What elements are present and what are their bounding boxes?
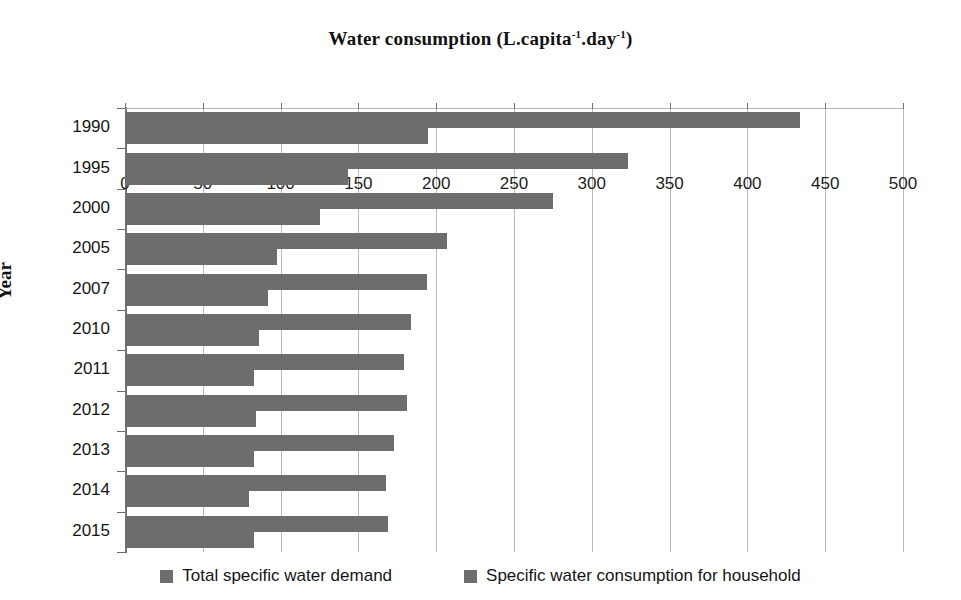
legend-label: Total specific water demand bbox=[182, 566, 392, 586]
bar-2013-series-1[interactable] bbox=[125, 451, 254, 467]
chart-title-exponent-1: -1 bbox=[572, 28, 582, 40]
x-tick-label: 350 bbox=[640, 174, 700, 194]
chart-title-exponent-2: -1 bbox=[616, 28, 626, 40]
bar-2007-series-1[interactable] bbox=[125, 290, 268, 306]
y-category-label-2010: 2010 bbox=[0, 319, 110, 339]
bar-1990-series-1[interactable] bbox=[125, 128, 428, 144]
x-tick-label: 500 bbox=[873, 174, 933, 194]
x-tick-mark-100 bbox=[281, 103, 282, 109]
chart-title: Water consumption (L.capita-1.day-1) bbox=[0, 28, 961, 50]
bar-2014-series-1[interactable] bbox=[125, 491, 249, 507]
bar-2005-series-1[interactable] bbox=[125, 249, 277, 265]
x-tick-label: 250 bbox=[484, 174, 544, 194]
y-tick-mark-2011 bbox=[117, 350, 125, 351]
x-tick-label: 450 bbox=[795, 174, 855, 194]
x-tick-mark-400 bbox=[747, 103, 748, 109]
y-category-label-2014: 2014 bbox=[0, 480, 110, 500]
bar-2015-series-0[interactable] bbox=[125, 516, 388, 532]
bar-1990-series-0[interactable] bbox=[125, 112, 800, 128]
chart-legend: Total specific water demand Specific wat… bbox=[0, 566, 961, 586]
legend-item-total-specific-water-demand[interactable]: Total specific water demand bbox=[160, 566, 392, 586]
y-category-label-2012: 2012 bbox=[0, 400, 110, 420]
bar-2013-series-0[interactable] bbox=[125, 435, 394, 451]
y-tick-mark-2005 bbox=[117, 229, 125, 230]
y-tick-mark-1995 bbox=[117, 148, 125, 149]
bar-2012-series-0[interactable] bbox=[125, 395, 407, 411]
y-tick-mark-2010 bbox=[117, 310, 125, 311]
x-tick-mark-500 bbox=[903, 103, 904, 109]
legend-swatch-icon bbox=[160, 570, 173, 583]
x-tick-mark-0 bbox=[125, 103, 126, 109]
chart-title-end: ) bbox=[626, 28, 633, 49]
chart-title-main: Water consumption (L.capita bbox=[329, 28, 572, 49]
x-tick-mark-200 bbox=[436, 103, 437, 109]
x-tick-mark-250 bbox=[514, 103, 515, 109]
bar-2011-series-0[interactable] bbox=[125, 354, 404, 370]
bar-2012-series-1[interactable] bbox=[125, 411, 256, 427]
water-consumption-bar-chart: Water consumption (L.capita-1.day-1) Yea… bbox=[0, 0, 961, 600]
bar-2000-series-0[interactable] bbox=[125, 193, 553, 209]
y-category-label-2000: 2000 bbox=[0, 198, 110, 218]
y-tick-mark-2013 bbox=[117, 431, 125, 432]
y-category-label-2013: 2013 bbox=[0, 440, 110, 460]
bar-2000-series-1[interactable] bbox=[125, 209, 320, 225]
bar-2007-series-0[interactable] bbox=[125, 274, 427, 290]
bar-2014-series-0[interactable] bbox=[125, 475, 386, 491]
bar-2010-series-0[interactable] bbox=[125, 314, 411, 330]
chart-title-mid: .day bbox=[581, 28, 616, 49]
x-tick-mark-150 bbox=[358, 103, 359, 109]
y-tick-mark-1990 bbox=[117, 108, 125, 109]
bar-2015-series-1[interactable] bbox=[125, 532, 254, 548]
x-tick-mark-50 bbox=[203, 103, 204, 109]
bar-2010-series-1[interactable] bbox=[125, 330, 259, 346]
y-category-label-2015: 2015 bbox=[0, 521, 110, 541]
y-tick-mark-2007 bbox=[117, 269, 125, 270]
x-tick-label: 400 bbox=[717, 174, 777, 194]
y-category-label-1990: 1990 bbox=[0, 117, 110, 137]
y-category-label-2007: 2007 bbox=[0, 279, 110, 299]
bar-1995-series-1[interactable] bbox=[125, 169, 348, 185]
bar-1995-series-0[interactable] bbox=[125, 153, 628, 169]
x-tick-mark-350 bbox=[670, 103, 671, 109]
y-tick-mark-2012 bbox=[117, 391, 125, 392]
legend-label: Specific water consumption for household bbox=[486, 566, 801, 586]
y-category-label-2005: 2005 bbox=[0, 238, 110, 258]
y-tick-mark-2015 bbox=[117, 512, 125, 513]
y-tick-mark-end bbox=[117, 552, 125, 553]
legend-swatch-icon bbox=[464, 570, 477, 583]
x-tick-mark-300 bbox=[592, 103, 593, 109]
y-tick-mark-2014 bbox=[117, 471, 125, 472]
x-tick-label: 300 bbox=[562, 174, 622, 194]
x-tick-label: 200 bbox=[406, 174, 466, 194]
y-category-label-1995: 1995 bbox=[0, 158, 110, 178]
legend-item-specific-water-consumption-for-household[interactable]: Specific water consumption for household bbox=[464, 566, 801, 586]
y-category-label-2011: 2011 bbox=[0, 359, 110, 379]
bar-2011-series-1[interactable] bbox=[125, 370, 254, 386]
plot-area: 050100150200250300350400450500 bbox=[125, 108, 903, 552]
bar-2005-series-0[interactable] bbox=[125, 233, 447, 249]
x-tick-mark-450 bbox=[825, 103, 826, 109]
